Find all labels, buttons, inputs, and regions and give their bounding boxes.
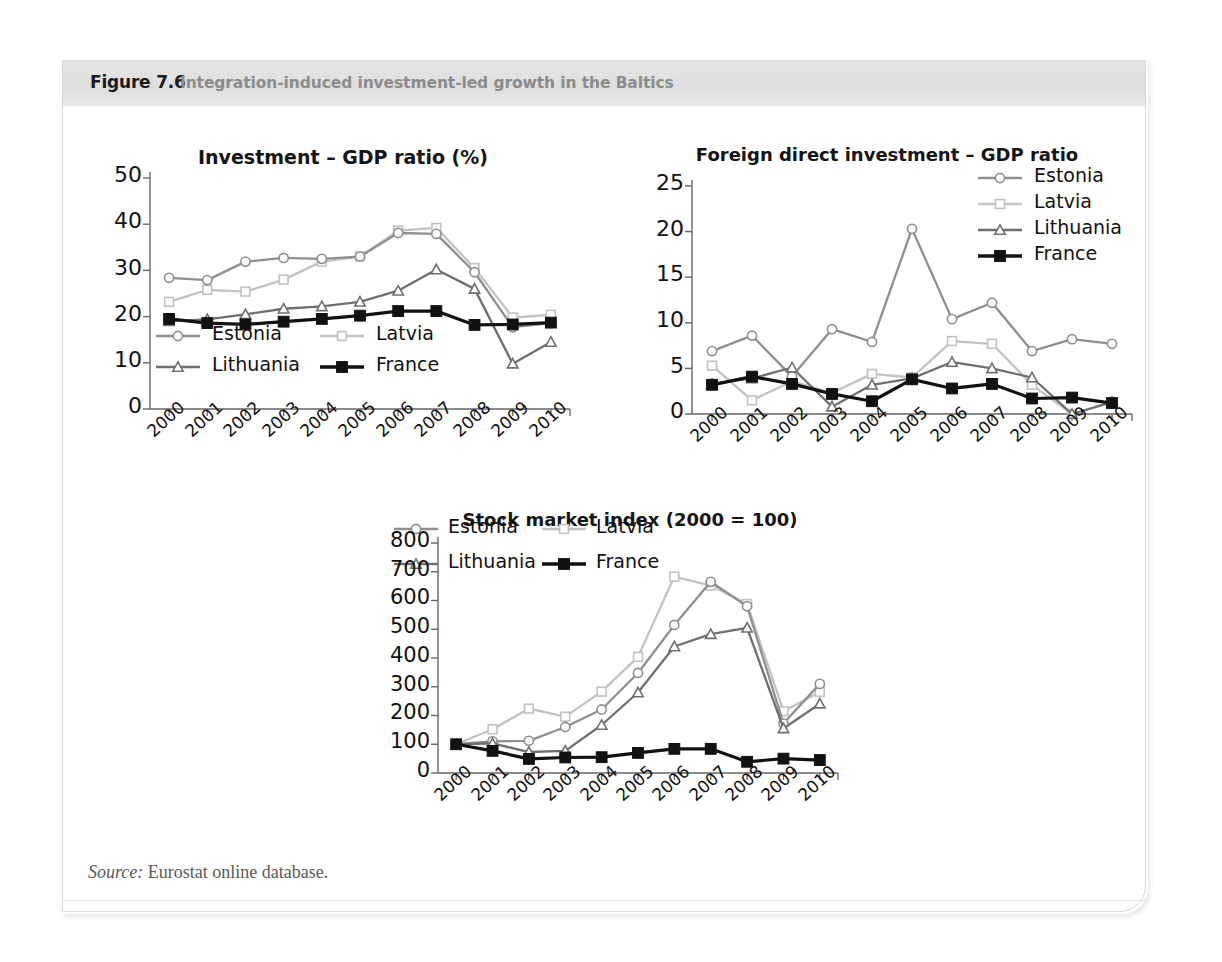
data-point-marker	[987, 379, 998, 390]
data-point-marker	[868, 369, 877, 378]
data-point-marker	[787, 379, 798, 390]
legend-label-latvia: Latvia	[596, 515, 654, 537]
y-axis-tick-label: 600	[362, 585, 430, 609]
legend-label-france: France	[376, 353, 439, 375]
figure-page: Figure 7.6 Integration-induced investmen…	[0, 0, 1222, 962]
data-point-marker	[705, 743, 716, 754]
legend-label-estonia: Estonia	[1034, 164, 1104, 186]
source-text: Eurostat online database.	[148, 862, 328, 882]
y-axis-tick-label: 800	[362, 528, 430, 552]
data-point-marker	[203, 285, 212, 294]
data-point-marker	[337, 362, 348, 373]
data-point-marker	[470, 268, 479, 277]
source-divider	[63, 900, 1145, 901]
data-point-marker	[827, 389, 838, 400]
data-point-marker	[279, 275, 288, 284]
data-point-marker	[707, 346, 716, 355]
data-point-marker	[996, 200, 1005, 209]
data-point-marker	[787, 362, 797, 371]
data-point-marker	[669, 743, 680, 754]
legend-label-france: France	[1034, 242, 1097, 264]
y-axis-tick-label: 500	[362, 614, 430, 638]
data-point-marker	[431, 264, 441, 273]
legend-label-lithuania: Lithuania	[1034, 216, 1122, 238]
chart-investment-gdp: Investment – GDP ratio (%)01020304050200…	[88, 140, 598, 490]
data-point-marker	[708, 361, 717, 370]
data-point-marker	[948, 337, 957, 346]
data-point-marker	[947, 315, 956, 324]
data-point-marker	[546, 317, 557, 328]
data-point-marker	[1067, 392, 1078, 403]
data-point-marker	[525, 704, 534, 713]
data-point-marker	[203, 276, 212, 285]
data-point-marker	[747, 371, 758, 382]
data-point-marker	[1027, 393, 1038, 404]
data-point-marker	[827, 325, 836, 334]
data-point-marker	[165, 297, 174, 306]
y-axis-tick-label: 5	[616, 353, 684, 378]
data-point-marker	[867, 337, 876, 346]
source-prefix: Source:	[88, 862, 143, 882]
data-point-marker	[907, 374, 918, 385]
data-point-marker	[279, 253, 288, 262]
data-point-marker	[432, 229, 441, 238]
data-point-marker	[451, 739, 462, 750]
data-point-marker	[1027, 346, 1036, 355]
data-point-marker	[670, 572, 679, 581]
data-point-marker	[706, 577, 715, 586]
data-point-marker	[987, 298, 996, 307]
y-axis-tick-label: 100	[362, 729, 430, 753]
data-point-marker	[1067, 335, 1076, 344]
data-point-marker	[560, 525, 569, 534]
legend-label-latvia: Latvia	[376, 322, 434, 344]
y-axis-tick-label: 15	[616, 261, 684, 286]
data-point-marker	[596, 752, 607, 763]
figure-label: Figure 7.6	[90, 72, 186, 92]
data-point-marker	[633, 747, 644, 758]
data-point-marker	[507, 319, 518, 330]
data-point-marker	[241, 287, 250, 296]
source-note: Source: Eurostat online database.	[88, 862, 328, 883]
y-axis-tick-label: 700	[362, 557, 430, 581]
y-axis-tick-label: 20	[616, 216, 684, 241]
chart-fdi-gdp: Foreign direct investment – GDP ratio051…	[630, 140, 1160, 490]
data-point-marker	[597, 687, 606, 696]
legend-label-latvia: Latvia	[1034, 190, 1092, 212]
data-point-marker	[338, 332, 347, 341]
data-point-marker	[316, 314, 327, 325]
legend-label-lithuania: Lithuania	[448, 550, 536, 572]
data-point-marker	[597, 705, 606, 714]
data-point-marker	[559, 559, 570, 570]
y-axis-tick-label: 25	[616, 170, 684, 195]
y-axis-tick-label: 0	[362, 758, 430, 782]
data-point-marker	[561, 722, 570, 731]
figure-title: Integration-induced investment-led growt…	[180, 74, 674, 92]
data-point-marker	[546, 337, 556, 346]
y-axis-tick-label: 50	[74, 162, 142, 187]
data-point-marker	[317, 254, 326, 263]
data-point-marker	[488, 725, 497, 734]
data-point-marker	[469, 284, 479, 293]
data-point-marker	[173, 331, 182, 340]
y-axis-tick-label: 300	[362, 672, 430, 696]
data-point-marker	[524, 736, 533, 745]
y-axis-tick-label: 20	[74, 301, 142, 326]
data-point-marker	[995, 173, 1004, 182]
legend-label-estonia: Estonia	[448, 515, 518, 537]
data-point-marker	[561, 712, 570, 721]
data-point-marker	[393, 306, 404, 317]
legend-label-lithuania: Lithuania	[212, 353, 300, 375]
y-axis-tick-label: 0	[616, 398, 684, 423]
data-point-marker	[394, 228, 403, 237]
chart-plot-area	[88, 140, 598, 490]
chart-stock-market-index: Stock market index (2000 = 100)010020030…	[360, 505, 900, 855]
data-point-marker	[988, 339, 997, 348]
y-axis-tick-label: 30	[74, 255, 142, 280]
y-axis-tick-label: 0	[74, 393, 142, 418]
data-point-marker	[633, 668, 642, 677]
data-point-marker	[670, 620, 679, 629]
legend-label-estonia: Estonia	[212, 322, 282, 344]
data-point-marker	[742, 602, 751, 611]
y-axis-tick-label: 400	[362, 643, 430, 667]
y-axis-tick-label: 10	[74, 347, 142, 372]
